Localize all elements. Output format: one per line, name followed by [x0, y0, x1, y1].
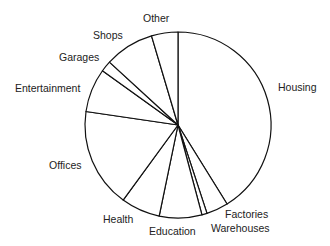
- label-offices: Offices: [49, 159, 81, 171]
- label-shops: Shops: [93, 29, 123, 41]
- label-garages: Garages: [59, 51, 99, 63]
- label-other: Other: [143, 12, 169, 24]
- label-education: Education: [149, 225, 196, 237]
- label-health: Health: [103, 213, 133, 225]
- label-housing: Housing: [278, 81, 317, 93]
- label-entertainment: Entertainment: [15, 82, 80, 94]
- pie-chart: [0, 0, 330, 246]
- pie-slices: [85, 32, 271, 218]
- label-factories: Factories: [225, 208, 268, 220]
- label-warehouses: Warehouses: [211, 222, 270, 234]
